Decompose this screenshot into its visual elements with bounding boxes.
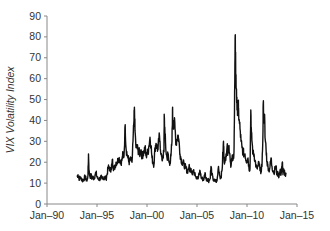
plot-area <box>77 35 286 183</box>
y-tick-label: 80 <box>29 30 41 42</box>
y-tick-label: 30 <box>29 135 41 147</box>
x-tick-label: Jan–00 <box>130 209 165 221</box>
y-tick-label: 20 <box>29 156 41 168</box>
x-tick-label: Jan–90 <box>30 209 65 221</box>
y-tick-label: 10 <box>29 177 41 189</box>
y-axis-title: VIX Volatility Index <box>4 66 16 154</box>
y-tick-label: 40 <box>29 114 41 126</box>
y-axis: 0102030405060708090 <box>29 10 47 210</box>
x-tick-label: Jan–15 <box>280 209 315 221</box>
y-tick-label: 60 <box>29 72 41 84</box>
x-tick-label: Jan–10 <box>230 209 265 221</box>
y-tick-label: 90 <box>29 10 41 22</box>
x-axis: Jan–90Jan–95Jan–00Jan–05Jan–10Jan–15 <box>30 204 315 221</box>
y-tick-label: 0 <box>35 198 41 210</box>
y-tick-label: 70 <box>29 51 41 63</box>
vix-series-line <box>77 35 286 183</box>
vix-line-chart: 0102030405060708090 Jan–90Jan–95Jan–00Ja… <box>0 0 330 231</box>
x-tick-label: Jan–95 <box>80 209 115 221</box>
x-tick-label: Jan–05 <box>180 209 215 221</box>
y-tick-label: 50 <box>29 93 41 105</box>
